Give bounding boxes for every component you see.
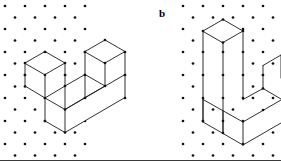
bottom-rule	[0, 160, 281, 161]
isometric-drawing-canvas	[0, 0, 281, 161]
shape-u-solid-left	[24, 39, 127, 134]
figure-label-b: b	[159, 8, 165, 19]
right-solid-faces	[203, 20, 281, 146]
isometric-figure-panel: b	[0, 0, 281, 161]
shape-u-solid-right	[202, 18, 281, 145]
